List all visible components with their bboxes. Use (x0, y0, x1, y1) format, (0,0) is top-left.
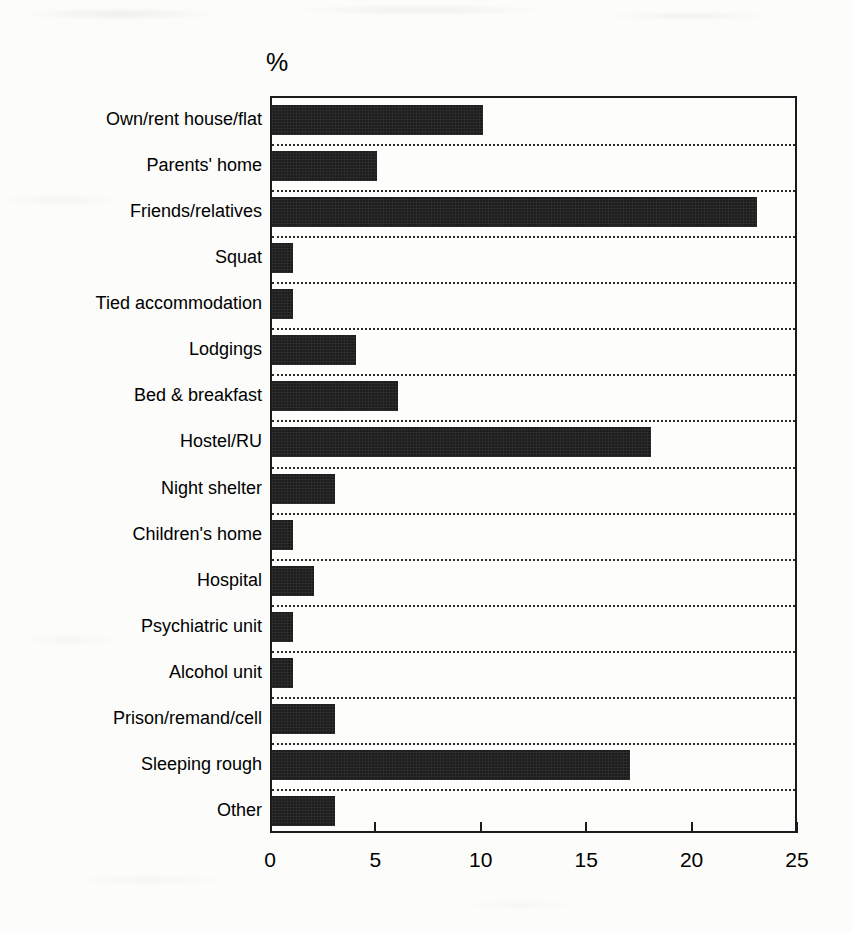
x-tick-label: 25 (785, 849, 808, 870)
bar (272, 796, 335, 826)
gridline (272, 513, 795, 515)
category-label: Hospital (0, 571, 262, 589)
bar (272, 381, 398, 411)
bar (272, 566, 314, 596)
x-tick-mark (796, 822, 798, 833)
category-label: Sleeping rough (0, 755, 262, 773)
gridline (272, 190, 795, 192)
category-label: Prison/remand/cell (0, 709, 262, 727)
plot-area (270, 96, 797, 833)
category-label: Squat (0, 248, 262, 266)
category-label: Tied accommodation (0, 294, 262, 312)
bar (272, 520, 293, 550)
value-axis: 0510152025 (270, 833, 797, 893)
bar (272, 151, 377, 181)
x-tick-mark (480, 822, 482, 833)
bar (272, 243, 293, 273)
category-label: Lodgings (0, 340, 262, 358)
category-label: Own/rent house/flat (0, 110, 262, 128)
bar (272, 658, 293, 688)
gridline (272, 743, 795, 745)
gridline (272, 282, 795, 284)
scanned-page: % Own/rent house/flatParents' homeFriend… (0, 0, 852, 932)
bar (272, 335, 356, 365)
x-tick-mark (374, 822, 376, 833)
category-label: Alcohol unit (0, 663, 262, 681)
category-axis-labels: Own/rent house/flatParents' homeFriends/… (0, 96, 262, 833)
category-label: Other (0, 801, 262, 819)
bar (272, 704, 335, 734)
gridline (272, 651, 795, 653)
gridline (272, 420, 795, 422)
bar (272, 197, 757, 227)
bar (272, 612, 293, 642)
gridline (272, 144, 795, 146)
bar (272, 427, 651, 457)
category-label: Hostel/RU (0, 432, 262, 450)
category-label: Bed & breakfast (0, 386, 262, 404)
bar (272, 289, 293, 319)
category-label: Parents' home (0, 156, 262, 174)
gridline (272, 236, 795, 238)
gridline (272, 605, 795, 607)
bar (272, 105, 483, 135)
gridline (272, 467, 795, 469)
gridline (272, 697, 795, 699)
x-tick-label: 15 (575, 849, 598, 870)
category-label: Psychiatric unit (0, 617, 262, 635)
gridline (272, 374, 795, 376)
bar (272, 474, 335, 504)
category-label: Children's home (0, 525, 262, 543)
gridline (272, 789, 795, 791)
bar (272, 750, 630, 780)
x-tick-label: 0 (264, 849, 276, 870)
x-tick-mark (585, 822, 587, 833)
x-tick-label: 10 (469, 849, 492, 870)
gridline (272, 559, 795, 561)
gridline (272, 328, 795, 330)
x-tick-label: 20 (680, 849, 703, 870)
x-tick-label: 5 (370, 849, 382, 870)
horizontal-bar-chart: Own/rent house/flatParents' homeFriends/… (0, 0, 852, 932)
x-tick-mark (691, 822, 693, 833)
category-label: Friends/relatives (0, 202, 262, 220)
category-label: Night shelter (0, 479, 262, 497)
